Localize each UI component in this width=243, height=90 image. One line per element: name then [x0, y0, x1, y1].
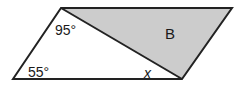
- angle-label-x: x: [143, 65, 152, 81]
- region-label-b: B: [165, 25, 175, 42]
- angle-label-95: 95°: [55, 22, 76, 38]
- angle-label-55: 55°: [28, 64, 49, 80]
- parallelogram-diagram: 95° 55° B x: [0, 0, 243, 90]
